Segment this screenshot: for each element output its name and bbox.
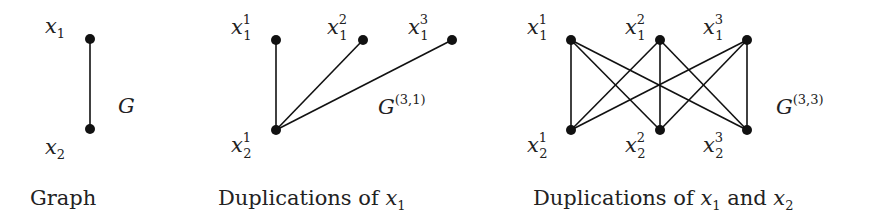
edge <box>276 40 363 130</box>
node-x2-2 <box>655 125 665 135</box>
caption-graph: Graph <box>30 186 96 210</box>
node-x1-1 <box>271 35 281 45</box>
label-x2: x2 <box>45 135 65 162</box>
node-x1-3 <box>742 35 752 45</box>
label-x2-1: x12 <box>231 130 251 161</box>
label-x1-3: x31 <box>703 12 723 43</box>
label-x1-2: x21 <box>625 12 645 43</box>
panel-duplications-x1-x2: x11 x21 x31 x12 x22 x32 G(3,3) Duplicati… <box>527 12 824 213</box>
label-x1-2: x21 <box>327 12 347 43</box>
label-x1-1: x11 <box>527 12 547 43</box>
node-x1-1 <box>566 35 576 45</box>
graph-label-G: G <box>118 94 135 118</box>
node-x1-2 <box>655 35 665 45</box>
graph-label-G33: G(3,3) <box>776 92 824 119</box>
node-x1-3 <box>447 35 457 45</box>
label-x1: x1 <box>45 14 65 41</box>
caption-duplications-x1-x2: Duplications of x1 and x2 <box>533 186 793 213</box>
node-x1-2 <box>358 35 368 45</box>
node-x2-1 <box>271 125 281 135</box>
edge <box>276 40 452 130</box>
label-x2-2: x22 <box>625 130 645 161</box>
caption-duplications-x1: Duplications of x1 <box>218 186 406 213</box>
duplication-diagram: x1 x2 G Graph x11 x21 x31 x12 G(3,1) Dup… <box>0 0 873 216</box>
node-x2 <box>85 124 95 134</box>
graph-label-G31: G(3,1) <box>378 92 426 119</box>
panel-duplications-x1: x11 x21 x31 x12 G(3,1) Duplications of x… <box>218 12 457 213</box>
panel-graph: x1 x2 G Graph <box>30 14 135 210</box>
node-x1 <box>85 34 95 44</box>
node-x2-1 <box>566 125 576 135</box>
node-x2-3 <box>742 125 752 135</box>
label-x1-3: x31 <box>408 12 428 43</box>
label-x1-1: x11 <box>231 12 251 43</box>
label-x2-1: x12 <box>527 130 547 161</box>
label-x2-3: x32 <box>703 130 723 161</box>
